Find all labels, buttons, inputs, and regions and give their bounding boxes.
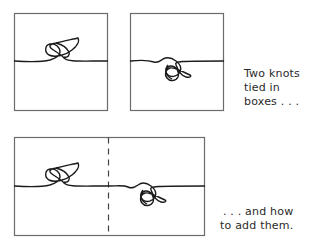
caption-line: to add them. bbox=[220, 219, 293, 233]
knot-box-1 bbox=[15, 14, 108, 111]
knot-1-strand bbox=[15, 38, 108, 62]
knot-2-strand bbox=[131, 58, 224, 81]
caption-line: . . . and how bbox=[220, 205, 293, 219]
caption-line: boxes . . . bbox=[244, 95, 300, 109]
knot-box-2 bbox=[131, 14, 224, 111]
caption-line: tied in bbox=[244, 81, 300, 95]
caption-two-knots: Two knots tied in boxes . . . bbox=[244, 67, 300, 109]
knot-sum-box bbox=[15, 138, 205, 236]
knot-sum-strand bbox=[15, 163, 205, 206]
caption-line: Two knots bbox=[244, 67, 300, 81]
caption-how-to-add: . . . and how to add them. bbox=[220, 205, 293, 233]
